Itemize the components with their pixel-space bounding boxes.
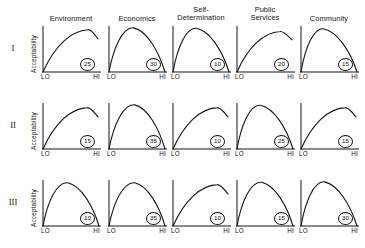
x-tick-low: LO [41,227,50,234]
panel-annotation-badge: 10 [80,212,95,225]
panel-annotation-badge: 10 [210,212,225,225]
panel-plot [170,26,232,80]
x-tick-high: HI [93,73,100,80]
panel-annotation-badge: 15 [274,212,289,225]
x-tick-low: LO [41,73,50,80]
panel-annotation-badge: 25 [274,135,289,148]
chart-panel: LOHI15 [234,180,296,232]
row-label-II: II [6,120,20,130]
chart-panel: LOHI35 [106,180,168,232]
panel-plot [234,103,296,157]
x-tick-low: LO [171,227,180,234]
panel-plot [106,26,168,80]
x-tick-low: LO [41,150,50,157]
panel-plot [170,180,232,234]
x-tick-low: LO [171,150,180,157]
x-tick-low: LO [107,227,116,234]
x-tick-high: HI [93,150,100,157]
panel-plot [40,26,102,80]
panel-plot [106,180,168,234]
chart-panel: LOHI35 [106,103,168,155]
x-tick-low: LO [235,227,244,234]
chart-panel: LOHI10 [40,180,102,232]
panel-annotation-badge: 35 [146,212,161,225]
chart-panel: LOHI15 [40,103,102,155]
y-axis-label-row-II: Acceptability [30,112,37,150]
panel-annotation-badge: 35 [146,135,161,148]
chart-panel: LOHI20 [234,26,296,78]
column-header-4: Community [289,15,365,23]
y-axis-label-row-III: Acceptability [30,189,37,227]
x-tick-high: HI [159,227,166,234]
x-tick-high: HI [287,73,294,80]
chart-panel: LOHI30 [106,26,168,78]
panel-plot [40,180,102,234]
panel-plot [234,26,296,80]
x-tick-high: HI [351,73,358,80]
panel-plot [298,26,360,80]
panel-annotation-badge: 15 [338,135,353,148]
x-tick-low: LO [299,150,308,157]
x-tick-high: HI [223,227,230,234]
x-tick-high: HI [223,73,230,80]
chart-panel: LOHI25 [234,103,296,155]
x-tick-high: HI [93,227,100,234]
x-tick-low: LO [299,73,308,80]
chart-panel: LOHI10 [170,103,232,155]
figure-panel-grid: EnvironmentEconomicsSelf- DeterminationP… [0,0,365,248]
panel-annotation-badge: 30 [338,212,353,225]
x-tick-high: HI [287,227,294,234]
x-tick-low: LO [235,73,244,80]
x-tick-low: LO [235,150,244,157]
chart-panel: LOHI25 [40,26,102,78]
x-tick-high: HI [223,150,230,157]
panel-annotation-badge: 10 [210,135,225,148]
row-label-III: III [6,197,20,207]
x-tick-low: LO [299,227,308,234]
panel-annotation-badge: 10 [210,58,225,71]
panel-plot [298,180,360,234]
x-tick-high: HI [351,150,358,157]
panel-plot [170,103,232,157]
x-tick-high: HI [287,150,294,157]
x-tick-high: HI [159,150,166,157]
x-tick-low: LO [107,73,116,80]
panel-plot [40,103,102,157]
panel-annotation-badge: 15 [338,58,353,71]
y-axis-label-row-I: Acceptability [30,35,37,73]
chart-grid: EnvironmentEconomicsSelf- DeterminationP… [0,0,365,248]
row-label-I: I [6,43,20,53]
panel-annotation-badge: 30 [146,58,161,71]
x-tick-low: LO [107,150,116,157]
panel-plot [298,103,360,157]
chart-panel: LOHI10 [170,180,232,232]
panel-annotation-badge: 25 [80,58,95,71]
panel-annotation-badge: 15 [80,135,95,148]
panel-plot [106,103,168,157]
x-tick-low: LO [171,73,180,80]
x-tick-high: HI [351,227,358,234]
x-tick-high: HI [159,73,166,80]
panel-plot [234,180,296,234]
chart-panel: LOHI30 [298,180,360,232]
chart-panel: LOHI10 [170,26,232,78]
panel-annotation-badge: 20 [274,58,289,71]
chart-panel: LOHI15 [298,26,360,78]
chart-panel: LOHI15 [298,103,360,155]
